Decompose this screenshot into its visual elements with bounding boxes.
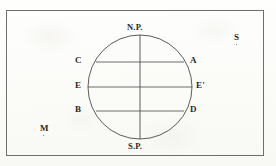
label-point-c: C: [75, 56, 82, 65]
label-corner-s: S: [234, 33, 239, 42]
label-point-e-prime: E': [196, 81, 205, 90]
label-north-pole: N.P.: [127, 23, 143, 32]
label-south-pole: S.P.: [128, 142, 142, 151]
label-point-b: B: [75, 105, 81, 114]
label-corner-m: M: [40, 124, 49, 133]
border-rectangle: [7, 11, 264, 156]
figure-container: N.P. S.P. C E B A E' D S M: [0, 0, 276, 166]
label-point-d: D: [190, 105, 197, 114]
label-point-a: A: [190, 56, 197, 65]
label-point-e: E: [75, 81, 81, 90]
